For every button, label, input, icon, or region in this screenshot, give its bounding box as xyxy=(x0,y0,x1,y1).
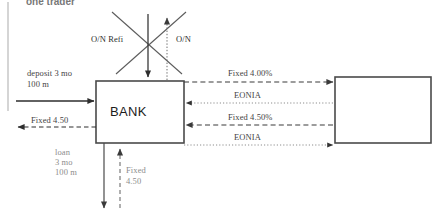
diagram-canvas: one trader xyxy=(0,0,438,223)
label-fixed-bottom-rate: 4.50 xyxy=(126,176,141,186)
label-loan-term: 3 mo xyxy=(55,157,73,167)
label-deposit-amount: 100 m xyxy=(27,79,49,89)
label-fixed-400-pct: Fixed 4.00% xyxy=(228,68,273,78)
bank-box-label: BANK xyxy=(110,104,147,119)
label-eonia-top: EONIA xyxy=(234,90,261,100)
label-eonia-bottom: EONIA xyxy=(234,132,261,142)
bank-swap-diagram xyxy=(0,0,438,223)
label-loan-amount: 100 m xyxy=(55,167,77,177)
label-loan: loan xyxy=(55,147,70,157)
counterparty-box xyxy=(335,77,431,143)
label-fixed-450-left: Fixed 4.50 xyxy=(31,115,68,125)
label-fixed-450-pct: Fixed 4.50% xyxy=(228,112,273,122)
label-deposit-term: deposit 3 mo xyxy=(27,68,72,78)
label-fixed-bottom: Fixed xyxy=(126,165,146,175)
label-on: O/N xyxy=(176,34,191,44)
label-on-refi: O/N Refi xyxy=(91,34,123,44)
